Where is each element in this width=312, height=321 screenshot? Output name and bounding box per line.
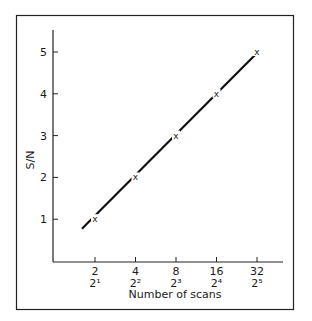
- chart-figure: 12345 22¹42²82³162⁴322⁵ xxxxx S/N Number…: [0, 0, 312, 321]
- fit-line: [82, 55, 255, 229]
- data-point-marker: x: [254, 47, 260, 57]
- y-tick-label: 4: [40, 88, 47, 101]
- x-tick-sublabel: 2⁵: [251, 277, 262, 290]
- y-tick-label: 2: [40, 171, 47, 184]
- y-ticks: 12345: [40, 46, 58, 226]
- y-tick-label: 1: [40, 213, 47, 226]
- x-axis-label: Number of scans: [128, 288, 221, 301]
- chart-svg: 12345 22¹42²82³162⁴322⁵ xxxxx S/N Number…: [0, 0, 312, 321]
- y-tick-label: 3: [40, 130, 47, 143]
- y-axis-label: S/N: [24, 151, 37, 170]
- y-tick-label: 5: [40, 46, 47, 59]
- data-point-marker: x: [133, 172, 139, 182]
- data-point-marker: x: [92, 214, 98, 224]
- data-point-marker: x: [214, 89, 220, 99]
- x-tick-sublabel: 2¹: [89, 277, 100, 290]
- data-point-marker: x: [173, 131, 179, 141]
